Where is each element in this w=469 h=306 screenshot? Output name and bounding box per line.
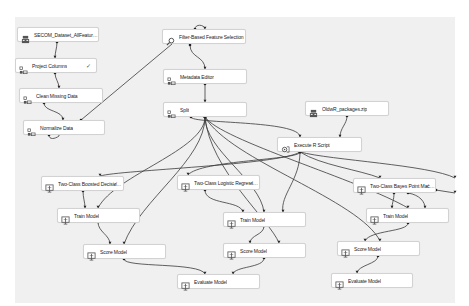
model-icon [335,276,344,285]
transform-icon [167,105,176,114]
transform-icon [19,61,28,70]
module-label: Project Columns [32,63,67,69]
module-label: Clean Missing Data [36,93,78,99]
search-icon [166,32,175,41]
module-node-train1[interactable]: Train Model [57,208,140,223]
module-node-r-packages[interactable]: OldwR_packages.zip [305,101,389,116]
check-icon: ✓ [425,182,430,189]
module-label: OldwR_packages.zip [322,106,367,112]
module-label: Split [180,107,189,113]
model-icon [61,211,70,220]
model-icon [357,181,366,190]
dataset-icon [309,104,318,113]
module-node-train2[interactable]: Train Model [223,212,306,227]
model-icon [341,244,350,253]
check-icon: ✓ [249,179,254,186]
transform-icon [23,91,32,100]
model-icon [227,215,236,224]
module-node-project-columns[interactable]: Project Columns ✓ [15,58,97,73]
module-node-dataset[interactable]: SECOM_Dataset_AllFeatures.cs... [17,27,99,42]
module-node-split[interactable]: Split [163,102,247,117]
module-node-train3[interactable]: Train Model [366,208,449,223]
transform-icon [167,72,176,81]
model-icon [227,246,236,255]
model-icon [87,247,96,256]
module-node-score2[interactable]: Score Model [223,243,306,258]
module-label: SECOM_Dataset_AllFeatures.cs... [34,32,98,38]
module-node-metadata-editor[interactable]: Metadata Editor [163,69,247,84]
module-label: Score Model [354,246,381,252]
module-label: Score Model [100,249,127,255]
module-label: Metadata Editor [180,74,214,80]
module-label: Evaluate Model [348,278,381,284]
module-label: Evaluate Model [194,279,227,285]
script-icon [281,140,290,149]
module-node-clean-missing[interactable]: Clean Missing Data [19,88,103,103]
module-node-logistic[interactable]: Two-Class Logistic Regression ✓ [177,175,260,190]
module-label: Normalize Data [40,125,73,131]
model-icon [45,179,54,188]
module-node-evaluate1[interactable]: Evaluate Model [177,274,260,289]
module-label: Score Model [240,248,267,254]
module-node-score1[interactable]: Score Model [83,244,166,259]
module-node-bayes[interactable]: Two-Class Bayes Point Machine ✓ [353,178,436,193]
check-icon: ✓ [113,180,118,187]
model-icon [181,277,190,286]
model-icon [181,178,190,187]
module-label: Train Model [240,217,265,223]
module-label: Train Model [383,213,408,219]
module-node-boosted-tree[interactable]: Two-Class Boosted Decision T... ✓ [41,176,124,191]
check-icon: ✓ [86,62,91,69]
module-label: Train Model [74,213,99,219]
module-node-filter-feature[interactable]: Filter-Based Feature Selection [162,29,246,44]
transform-icon [27,123,36,132]
dataset-icon [21,30,30,39]
module-node-execute-r[interactable]: Execute R Script [277,137,362,152]
module-node-normalize[interactable]: Normalize Data [23,120,105,135]
model-icon [370,211,379,220]
module-node-score3[interactable]: Score Model [337,241,420,256]
module-label: Execute R Script [294,142,330,148]
module-label: Filter-Based Feature Selection [179,34,244,40]
module-node-evaluate2[interactable]: Evaluate Model [331,273,413,288]
